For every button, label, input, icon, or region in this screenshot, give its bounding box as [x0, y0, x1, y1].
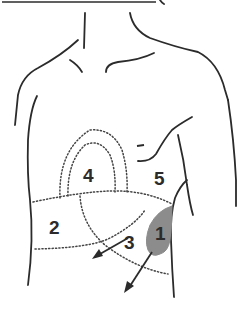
- region-4-outer-arch: [60, 130, 127, 198]
- left-clavicle: [70, 60, 82, 72]
- neck-left-line: [84, 13, 85, 48]
- top-rule-hook: [160, 0, 164, 4]
- torso-right-side-upper: [178, 135, 193, 215]
- right-arm-outer: [228, 100, 236, 206]
- torso-diagram: 4 5 2 3 1: [0, 0, 250, 311]
- region-label-2: 2: [49, 217, 60, 238]
- region-label-3: 3: [124, 232, 135, 253]
- region-label-4: 4: [83, 165, 94, 186]
- nipple-mark: [137, 145, 144, 146]
- region-label-5: 5: [154, 168, 165, 189]
- left-shoulder-outline: [15, 40, 78, 125]
- region-label-1: 1: [155, 223, 166, 244]
- right-pectoral-curve: [138, 117, 192, 161]
- arrow-from-3-head: [92, 249, 103, 259]
- region-upper-boundary: [33, 191, 172, 204]
- torso-left-side: [28, 96, 37, 285]
- torso-right-side-lower: [171, 180, 187, 297]
- right-clavicle: [106, 53, 154, 72]
